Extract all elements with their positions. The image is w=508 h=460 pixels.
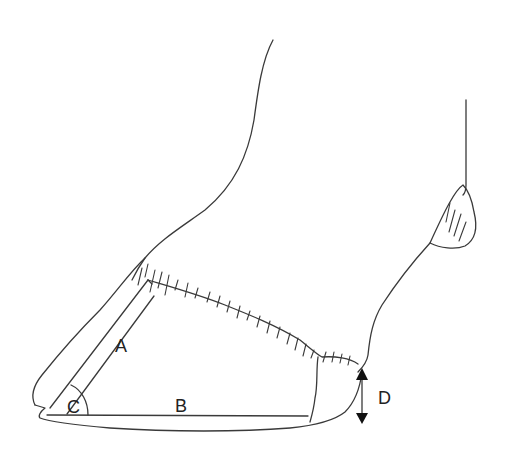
hoof-diagram: A B C D	[0, 0, 508, 460]
toe-tip	[35, 372, 362, 431]
heel-outline	[358, 243, 430, 372]
d-arrow-up-head	[356, 368, 368, 380]
hoof-wall-inner-2	[67, 296, 154, 414]
label-c: C	[67, 397, 80, 417]
front-leg-outline	[132, 40, 273, 280]
heel-wall-line	[310, 357, 318, 422]
ergot-hatch	[446, 203, 466, 241]
label-a: A	[115, 336, 127, 356]
d-arrow-down-head	[356, 413, 368, 424]
hoof-wall-inner-1	[50, 280, 148, 408]
coronary-band	[148, 280, 358, 364]
label-d: D	[378, 388, 391, 408]
coronary-hatch-marks	[138, 264, 350, 365]
rear-leg-outline	[463, 100, 466, 195]
label-b: B	[175, 396, 187, 416]
